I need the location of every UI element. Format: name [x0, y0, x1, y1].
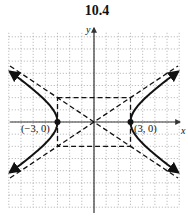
vertex-right-point	[128, 119, 134, 125]
hyperbola-graph: x y (−3, 0) (3, 0)	[0, 0, 188, 216]
vertex-right-label: (3, 0)	[134, 123, 157, 135]
x-axis-label: x	[180, 125, 186, 136]
vertex-left-label: (−3, 0)	[21, 123, 50, 135]
vertex-left-point	[55, 119, 61, 125]
y-axis-label: y	[85, 24, 91, 35]
